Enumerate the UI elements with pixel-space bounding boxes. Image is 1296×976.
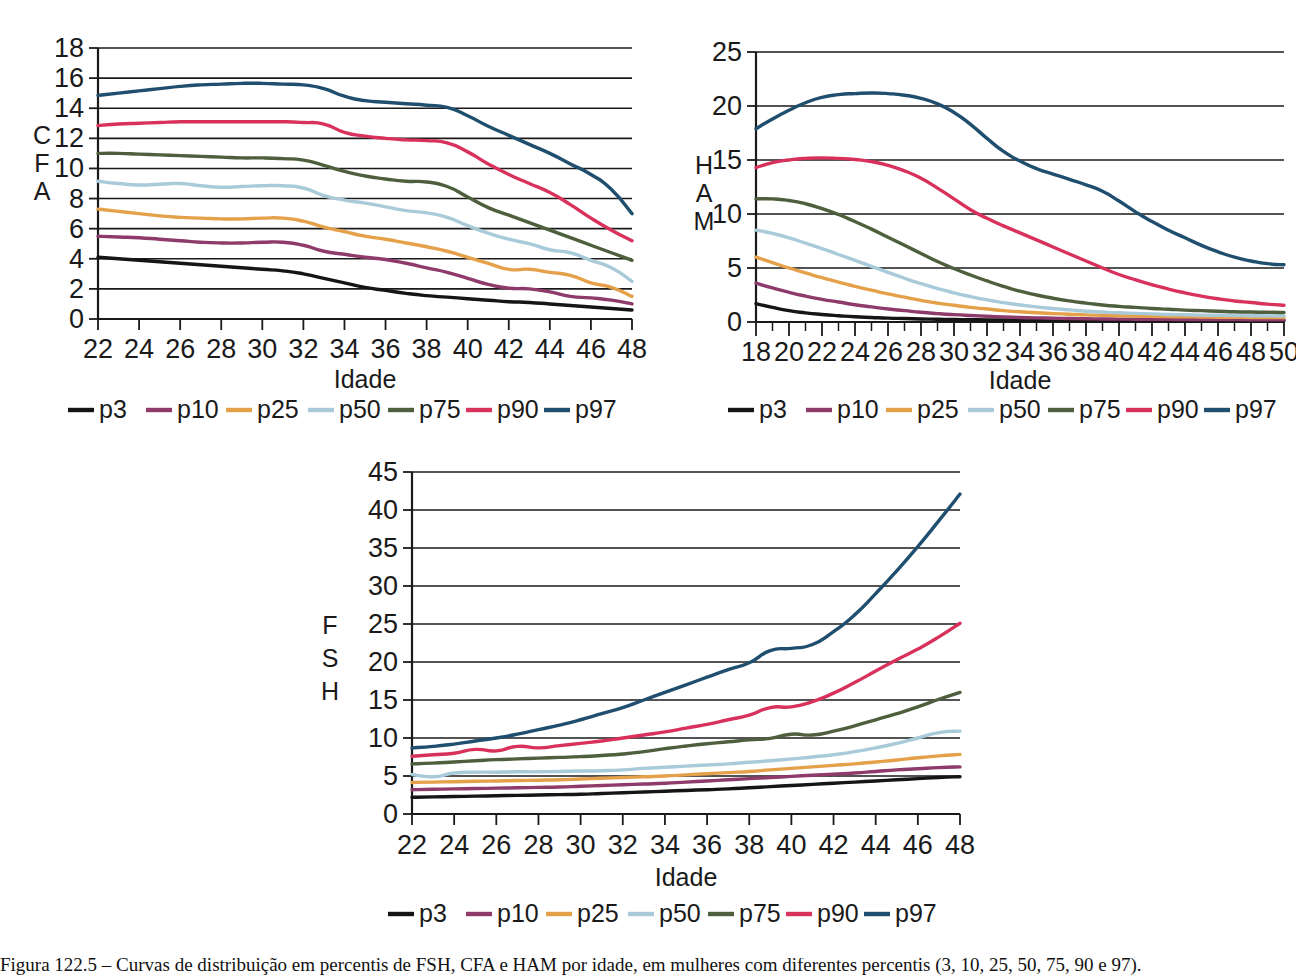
data-series-group xyxy=(412,494,960,797)
y-tick-label: 14 xyxy=(54,93,84,123)
data-line-p90 xyxy=(412,623,960,756)
chart-legend: p3p10p25p50p75p90p97 xyxy=(728,395,1277,423)
x-tick-label: 50 xyxy=(1269,337,1296,367)
chart-svg-fsh: 0510152025303540452224262830323436384042… xyxy=(300,452,1000,944)
y-tick-label: 40 xyxy=(368,495,398,525)
x-tick-label: 42 xyxy=(1137,337,1167,367)
y-tick-label: 0 xyxy=(727,307,742,337)
x-axis-title: Idade xyxy=(334,365,397,393)
legend-label-p3: p3 xyxy=(99,395,127,423)
x-axis-title: Idade xyxy=(989,366,1052,394)
y-tick-label: 6 xyxy=(69,214,84,244)
y-tick-label: 0 xyxy=(69,304,84,334)
y-axis-title: HAM xyxy=(694,151,715,235)
y-tick-label: 2 xyxy=(69,274,84,304)
data-series-group xyxy=(756,93,1284,321)
y-axis-title-letter: S xyxy=(322,644,339,672)
data-series-group xyxy=(98,83,632,310)
legend-label-p97: p97 xyxy=(895,899,937,927)
y-tick-label: 45 xyxy=(368,457,398,487)
x-tick-label: 36 xyxy=(371,334,401,364)
x-tick-label: 48 xyxy=(617,334,647,364)
chart-legend: p3p10p25p50p75p90p97 xyxy=(388,899,937,927)
legend-label-p75: p75 xyxy=(419,395,461,423)
figure-caption: Figura 122.5 – Curvas de distribuição em… xyxy=(0,958,1296,976)
legend-label-p10: p10 xyxy=(497,899,539,927)
chart-panel-cfa: 0246810121416182224262830323436384042444… xyxy=(0,6,650,436)
y-axis-title-letter: F xyxy=(322,611,337,639)
x-tick-label: 26 xyxy=(481,830,511,860)
x-tick-label: 46 xyxy=(576,334,606,364)
chart-svg-ham: 0510152025182022242628303234363840424446… xyxy=(660,6,1296,436)
legend-label-p90: p90 xyxy=(817,899,859,927)
x-tick-label: 32 xyxy=(608,830,638,860)
chart-panel-ham: 0510152025182022242628303234363840424446… xyxy=(660,6,1296,436)
x-tick-label: 32 xyxy=(972,337,1002,367)
x-tick-label: 44 xyxy=(1170,337,1200,367)
x-tick-label: 48 xyxy=(1236,337,1266,367)
y-tick-label: 15 xyxy=(368,685,398,715)
x-tick-label: 26 xyxy=(873,337,903,367)
y-axis-title-letter: H xyxy=(321,677,339,705)
y-tick-label: 16 xyxy=(54,63,84,93)
x-tick-label: 38 xyxy=(412,334,442,364)
legend-label-p3: p3 xyxy=(759,395,787,423)
x-tick-label: 34 xyxy=(650,830,680,860)
y-tick-label: 10 xyxy=(712,199,742,229)
x-tick-label: 30 xyxy=(939,337,969,367)
data-line-p25 xyxy=(98,209,632,296)
x-tick-label: 28 xyxy=(906,337,936,367)
y-axis-title-letter: H xyxy=(695,151,713,179)
y-tick-label: 8 xyxy=(69,184,84,214)
x-tick-label: 46 xyxy=(903,830,933,860)
y-tick-label: 15 xyxy=(712,145,742,175)
x-tick-label: 18 xyxy=(741,337,771,367)
x-tick-label: 24 xyxy=(124,334,154,364)
y-axis-title-letter: A xyxy=(34,177,51,205)
y-axis-title-letter: A xyxy=(696,179,713,207)
chart-panel-fsh: 0510152025303540452224262830323436384042… xyxy=(300,452,1000,944)
x-tick-label: 28 xyxy=(523,830,553,860)
y-tick-label: 30 xyxy=(368,571,398,601)
legend-label-p90: p90 xyxy=(497,395,539,423)
x-tick-label: 42 xyxy=(494,334,524,364)
data-line-p90 xyxy=(756,158,1284,305)
x-tick-label: 38 xyxy=(734,830,764,860)
chart-svg-cfa: 0246810121416182224262830323436384042444… xyxy=(0,6,650,436)
data-line-p3 xyxy=(98,257,632,310)
y-axis-title-letter: M xyxy=(694,207,715,235)
x-tick-label: 34 xyxy=(1005,337,1035,367)
x-tick-label: 28 xyxy=(206,334,236,364)
x-tick-label: 22 xyxy=(397,830,427,860)
x-tick-label: 36 xyxy=(1038,337,1068,367)
figure-caption-strip: Figura 122.5 – Curvas de distribuição em… xyxy=(0,958,1296,976)
x-tick-label: 46 xyxy=(1203,337,1233,367)
y-tick-label: 5 xyxy=(727,253,742,283)
data-line-p10 xyxy=(98,236,632,304)
x-tick-label: 36 xyxy=(692,830,722,860)
x-tick-label: 42 xyxy=(819,830,849,860)
data-line-p75 xyxy=(98,153,632,260)
y-tick-label: 10 xyxy=(368,723,398,753)
y-tick-label: 25 xyxy=(368,609,398,639)
y-tick-label: 4 xyxy=(69,244,84,274)
x-tick-label: 44 xyxy=(861,830,891,860)
legend-label-p90: p90 xyxy=(1157,395,1199,423)
y-tick-label: 25 xyxy=(712,37,742,67)
x-tick-label: 40 xyxy=(1104,337,1134,367)
y-tick-label: 20 xyxy=(368,647,398,677)
data-line-p10 xyxy=(412,767,960,790)
legend-label-p97: p97 xyxy=(575,395,617,423)
x-tick-label: 40 xyxy=(776,830,806,860)
x-tick-label: 30 xyxy=(566,830,596,860)
x-tick-label: 20 xyxy=(774,337,804,367)
x-tick-label: 24 xyxy=(840,337,870,367)
legend-label-p97: p97 xyxy=(1235,395,1277,423)
data-line-p90 xyxy=(98,122,632,241)
x-axis-title: Idade xyxy=(655,863,718,891)
data-line-p97 xyxy=(756,93,1284,265)
x-tick-label: 44 xyxy=(535,334,565,364)
y-axis-title-letter: F xyxy=(34,149,49,177)
y-axis-title: FSH xyxy=(321,611,339,705)
data-line-p97 xyxy=(412,494,960,748)
